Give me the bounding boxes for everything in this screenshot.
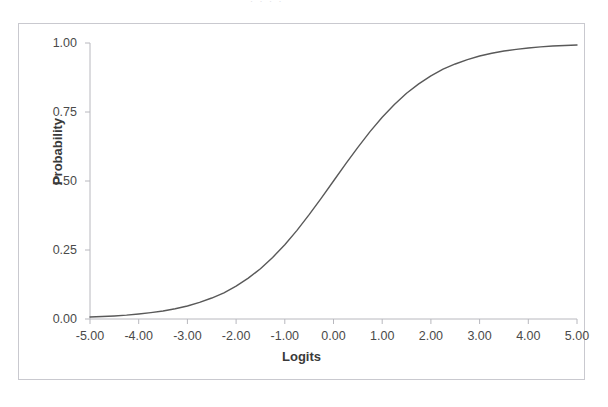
chart-frame: 1.00 0.75 0.50 0.25 0.00 -5.00 -4.00 -3.… bbox=[18, 23, 585, 380]
plot-area bbox=[19, 24, 586, 381]
x-tick-label-4: 4.00 bbox=[502, 329, 554, 343]
x-tick-label-neg2: -2.00 bbox=[210, 329, 262, 343]
x-tick-label-1: 1.00 bbox=[356, 329, 408, 343]
x-tick-label-neg5: -5.00 bbox=[64, 329, 116, 343]
x-tick-label-neg4: -4.00 bbox=[113, 329, 165, 343]
y-axis-ticks bbox=[85, 43, 90, 319]
y-tick-label-025: 0.25 bbox=[33, 243, 77, 257]
x-tick-label-0: 0.00 bbox=[308, 329, 360, 343]
x-tick-label-5: 5.00 bbox=[551, 329, 603, 343]
y-tick-label-1: 1.00 bbox=[33, 36, 77, 50]
y-tick-label-000: 0.00 bbox=[33, 312, 77, 326]
x-axis-ticks bbox=[90, 319, 577, 324]
scan-artifact-text: · · · · bbox=[250, 0, 550, 6]
y-axis-title: Probability bbox=[50, 102, 65, 202]
x-tick-label-neg1: -1.00 bbox=[259, 329, 311, 343]
x-tick-label-2: 2.00 bbox=[405, 329, 457, 343]
x-tick-label-3: 3.00 bbox=[454, 329, 506, 343]
x-axis-title: Logits bbox=[18, 349, 585, 364]
chart-figure: · · · · bbox=[0, 0, 608, 407]
logistic-curve bbox=[90, 45, 577, 317]
x-tick-label-neg3: -3.00 bbox=[161, 329, 213, 343]
